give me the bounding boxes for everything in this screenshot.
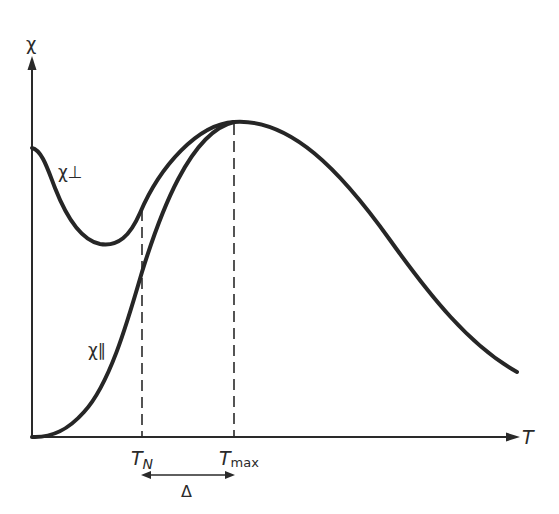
y-axis-arrowhead-icon [28, 56, 37, 70]
delta-right-arrowhead-icon [225, 471, 235, 479]
chi-parallel-label: χ∥ [88, 340, 106, 360]
tmax-subscript: max [231, 455, 260, 470]
tn-subscript: N [143, 456, 154, 472]
chi-perpendicular-label: χ⊥ [58, 162, 83, 182]
tn-tick-label: TN [131, 447, 154, 472]
x-axis-arrowhead-icon [506, 433, 520, 442]
delta-label: Δ [181, 482, 192, 501]
delta-left-arrowhead-icon [141, 471, 151, 479]
marker-lines [142, 124, 234, 437]
y-axis-label: χ [26, 33, 36, 54]
x-axis-label: T [522, 426, 535, 448]
high-temperature-tail [234, 122, 517, 372]
susceptibility-diagram: χ T χ⊥ χ∥ TN Tmax Δ [0, 0, 559, 514]
tmax-tick-label: Tmax [219, 447, 259, 470]
